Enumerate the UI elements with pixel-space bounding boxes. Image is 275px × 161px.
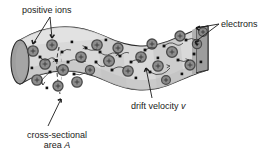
electron — [46, 87, 49, 90]
positive-ion — [53, 81, 63, 91]
electron — [85, 47, 88, 50]
electron — [49, 71, 52, 74]
electron — [193, 53, 196, 56]
electron — [67, 61, 70, 64]
electron — [200, 61, 203, 64]
electron — [105, 39, 108, 42]
label-cross-sectional-area: cross-sectionalarea A — [27, 130, 87, 150]
electron — [111, 69, 114, 72]
label-positive-ions: positive ions — [22, 5, 72, 15]
label-area-text: area — [44, 140, 65, 150]
electron — [31, 67, 34, 70]
positive-ion — [72, 77, 82, 87]
label-area-symbol: A — [64, 140, 70, 150]
positive-ion — [123, 66, 133, 76]
electron — [95, 61, 98, 64]
positive-ion — [167, 47, 178, 58]
left-end-cap — [11, 40, 29, 84]
positive-ion — [85, 65, 94, 74]
positive-ion — [113, 43, 123, 53]
electron — [61, 51, 64, 54]
electron — [119, 55, 122, 58]
electron — [181, 73, 184, 76]
label-electrons: electrons — [221, 19, 258, 29]
positive-ion — [153, 61, 163, 71]
electron — [39, 56, 42, 59]
electron — [185, 39, 188, 42]
label-drift-velocity-symbol: v — [181, 101, 186, 111]
electron — [163, 45, 166, 48]
label-drift-velocity-text: drift velocity — [131, 101, 181, 111]
electron — [149, 71, 152, 74]
electron — [177, 59, 180, 62]
label-cross-sectional-line2: area A — [27, 140, 87, 150]
electron — [55, 59, 58, 62]
electron — [71, 41, 74, 44]
positive-ion — [162, 76, 171, 85]
positive-ion — [47, 40, 57, 50]
positive-ion — [175, 31, 185, 41]
label-cross-sectional-line1: cross-sectional — [27, 130, 87, 140]
label-drift-velocity: drift velocity v — [131, 101, 186, 111]
electron — [144, 49, 147, 52]
electron — [130, 61, 133, 64]
electron — [135, 77, 138, 80]
positive-ion — [92, 40, 102, 50]
figure-conductor-drift-velocity: positive ions electrons drift velocity v… — [0, 0, 275, 161]
electron — [157, 57, 160, 60]
positive-ion — [104, 56, 115, 67]
leader-cross-sectional-area — [48, 99, 61, 126]
positive-ion — [199, 28, 208, 37]
electron — [73, 73, 76, 76]
positive-ion — [32, 75, 42, 85]
positive-ion — [58, 65, 69, 76]
electron — [99, 51, 102, 54]
positive-ion — [28, 46, 38, 56]
